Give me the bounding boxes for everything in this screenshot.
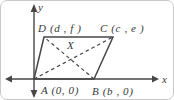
y-axis-label: y	[37, 1, 43, 13]
label-point-d: D (d , f )	[37, 22, 82, 35]
label-point-c: C (c , e )	[100, 22, 144, 35]
x-axis-arrowhead-left	[5, 76, 12, 83]
coordinate-plane-figure: y x D (d , f ) C (c , e ) A (0, 0) B (b …	[1, 1, 174, 100]
label-point-b: B (b , 0)	[92, 85, 133, 98]
y-axis-arrowhead-bottom	[31, 90, 38, 98]
x-axis-arrowhead-right	[152, 76, 159, 83]
y-axis-arrowhead-top	[31, 4, 38, 12]
label-point-a: A (0, 0)	[40, 84, 79, 97]
figure-canvas: y x D (d , f ) C (c , e ) A (0, 0) B (b …	[0, 0, 174, 100]
label-point-x: X	[66, 39, 75, 51]
x-axis-label: x	[161, 73, 167, 85]
